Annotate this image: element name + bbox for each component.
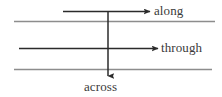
- direction-diagram: along through across: [0, 0, 222, 97]
- through-label: through: [161, 41, 202, 54]
- along-label: along: [154, 4, 183, 17]
- across-label: across: [84, 80, 117, 93]
